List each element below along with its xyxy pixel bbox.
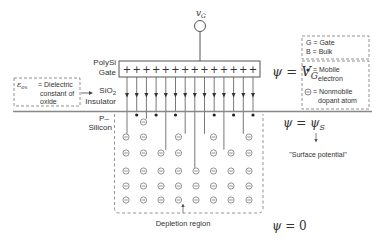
legend-gate: G = Gate: [306, 39, 335, 46]
plus-charge-icon: +: [123, 64, 131, 75]
field-arrowhead-icon: [241, 93, 245, 98]
field-arrowhead-icon: [174, 93, 178, 98]
gate-label: Gate: [99, 68, 117, 77]
dopant-icon: [305, 89, 311, 95]
dopant-atom-icon: [140, 150, 146, 156]
dopant-atom-icon: [140, 168, 146, 174]
sio2-label: SiO2: [99, 86, 116, 96]
electron-icon: [306, 68, 309, 71]
dopant-atom-icon: [210, 150, 216, 156]
legend-electron-line1: = Mobile: [313, 66, 340, 73]
psi-equals-vg: ψ = VG: [272, 64, 318, 81]
psi-equals-psis: ψ = ψS: [283, 116, 326, 132]
dopant-atom-icon: [210, 183, 216, 189]
plus-charge-icon: +: [142, 64, 150, 75]
field-arrowhead-icon: [232, 93, 236, 98]
field-arrowhead-icon: [125, 93, 129, 98]
dopant-atom-icon: [140, 183, 146, 189]
gate-voltage-source: vG: [195, 8, 207, 62]
dopant-atom-icon: [158, 168, 164, 174]
polysi-label: PolySi: [93, 58, 116, 67]
legend-electron-line2: electron: [318, 75, 343, 82]
plus-charge-icon: +: [162, 64, 170, 75]
dopant-atom-icon: [228, 197, 234, 203]
dopant-atom-icon: [140, 134, 146, 140]
dopant-atom-icon: [140, 197, 146, 203]
plus-charge-icon: +: [181, 64, 189, 75]
field-arrowhead-icon: [154, 93, 158, 98]
dopant-atom-icon: [175, 134, 181, 140]
plus-charge-icon: +: [229, 64, 237, 75]
plus-charge-icon: +: [220, 64, 228, 75]
plus-charge-icon: +: [191, 64, 199, 75]
dopant-atom-icon: [246, 197, 252, 203]
dopant-atom-icon: [175, 183, 181, 189]
plus-charge-icon: +: [249, 64, 257, 75]
note-line-1: = Dielectric: [38, 81, 73, 88]
dopant-atom-icon: [246, 134, 252, 140]
field-arrowhead-icon: [193, 93, 197, 98]
field-arrowhead-icon: [144, 93, 148, 98]
epsilon-ox-symbol: εox: [17, 80, 29, 90]
voltage-terminal-icon: [195, 21, 206, 32]
insulator-label: Insulator: [85, 97, 116, 106]
note-line-2: constant of: [40, 90, 74, 97]
plus-charge-icon: +: [210, 64, 218, 75]
dopant-atom-icon: [123, 150, 129, 156]
dopant-atom-icon: [210, 197, 216, 203]
dopant-atom-icon: [210, 134, 216, 140]
field-arrowhead-icon: [212, 93, 216, 98]
dopant-atom-icon: [193, 168, 199, 174]
electron-dot: [174, 113, 177, 116]
electron-dot: [135, 113, 138, 116]
plus-charge-icon: +: [239, 64, 247, 75]
dopant-atom-icon: [123, 168, 129, 174]
plus-charge-icon: +: [171, 64, 179, 75]
dopant-atom-icon: [193, 197, 199, 203]
dopant-atom-icon: [175, 168, 181, 174]
down-arrow-icon: [314, 139, 317, 143]
field-arrowhead-icon: [222, 93, 226, 98]
dopant-atom-icon: [246, 168, 252, 174]
p-minus-label: P–: [99, 114, 109, 123]
dopant-atom-icon: [246, 150, 252, 156]
plus-charge-icon: +: [200, 64, 208, 75]
electron-dot: [232, 113, 235, 116]
mos-capacitor-diagram: vG PolySi Gate ++++++++++++++ SiO2 Insul…: [0, 0, 381, 243]
dopant-atom-icon: [158, 150, 164, 156]
dopant-atom-icon: [158, 183, 164, 189]
legend-dopant-line2: dopant atom: [318, 97, 357, 105]
dopant-atom-icon: [246, 183, 252, 189]
legend: G = Gate B = Bulk = Mobile electron = No…: [302, 36, 369, 109]
electron-dot: [251, 113, 254, 116]
electron-dot: [155, 113, 158, 116]
field-arrowhead-icon: [203, 93, 207, 98]
vg-label: vG: [196, 8, 206, 19]
field-arrowhead-icon: [164, 93, 168, 98]
depletion-region-label: Depletion region: [156, 219, 211, 228]
dopant-atom-icon: [228, 168, 234, 174]
dopant-atom-icon: [123, 183, 129, 189]
dopant-atom-icon: [175, 150, 181, 156]
legend-dopant-line1: = Nonmobile: [313, 88, 353, 95]
legend-bulk: B = Bulk: [306, 48, 333, 55]
psi-equals-zero: ψ = 0: [272, 219, 307, 233]
electron-dot: [213, 113, 216, 116]
field-arrowhead-icon: [251, 93, 255, 98]
dopant-atom-icon: [210, 168, 216, 174]
depletion-region-boundary: [115, 114, 264, 213]
silicon-label: Silicon: [88, 123, 112, 132]
plus-charge-icon: +: [133, 64, 141, 75]
oxide-dielectric-note: εox = Dielectric constant of oxide: [14, 78, 93, 106]
dopant-atom-icon: [140, 119, 146, 125]
dopant-atom-icon: [123, 134, 129, 140]
field-arrowhead-icon: [183, 93, 187, 98]
field-arrowhead-icon: [135, 93, 139, 98]
up-arrow-icon: [181, 204, 184, 208]
dopant-atom-icon: [175, 197, 181, 203]
surface-potential-label: "Surface potential": [289, 151, 347, 159]
dopant-atom-icon: [228, 150, 234, 156]
note-line-3: oxide: [40, 98, 57, 105]
dopant-atom-icon: [158, 197, 164, 203]
dopant-atom-icon: [123, 197, 129, 203]
